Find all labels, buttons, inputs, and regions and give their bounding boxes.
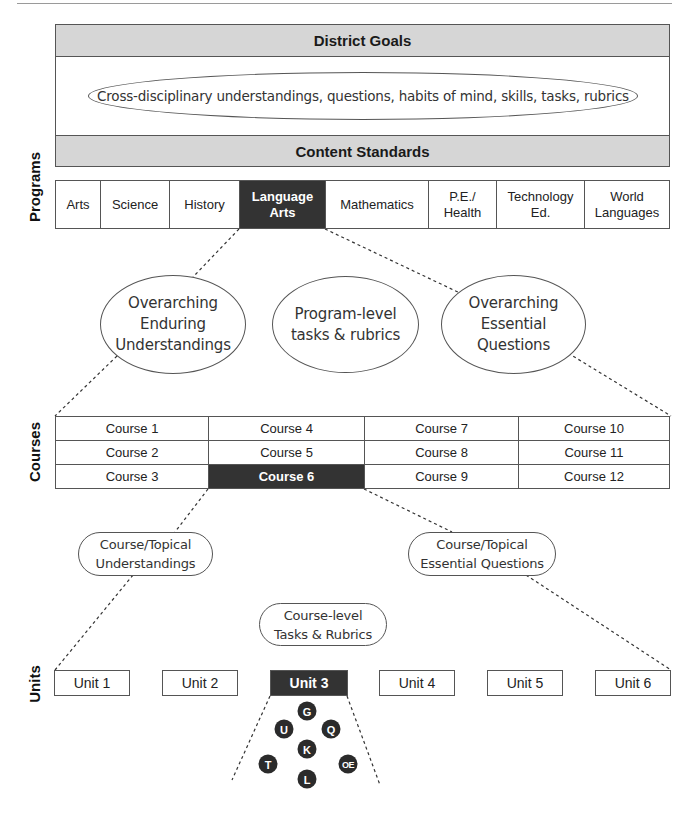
course-11[interactable]: Course 11 — [519, 441, 669, 465]
unit-3[interactable]: Unit 3 — [270, 670, 348, 696]
course-4[interactable]: Course 4 — [209, 417, 365, 441]
overarching-enduring-understandings-oval: Overarching Enduring Understandings — [100, 275, 246, 374]
unit-element-q: Q — [322, 720, 341, 739]
course-1[interactable]: Course 1 — [56, 417, 209, 441]
unit-element-l: L — [298, 770, 317, 789]
course-6[interactable]: Course 6 — [209, 465, 365, 488]
course-level-tasks-text: Course-level Tasks & Rubrics — [274, 606, 372, 644]
program-arts[interactable]: Arts — [56, 181, 101, 228]
course-level-tasks-pill: Course-level Tasks & Rubrics — [259, 603, 387, 646]
course-topical-essential-questions-text: Course/Topical Essential Questions — [420, 535, 544, 573]
overarching-enduring-understandings-text: Overarching Enduring Understandings — [115, 293, 231, 356]
course-3[interactable]: Course 3 — [56, 465, 209, 488]
program-technology-ed[interactable]: Technology Ed. — [497, 181, 585, 228]
courses-table: Course 1 Course 4 Course 7 Course 10 Cou… — [55, 416, 670, 489]
course-12[interactable]: Course 12 — [519, 465, 669, 488]
programs-row: Arts Science History Language Arts Mathe… — [55, 180, 670, 229]
unit-1[interactable]: Unit 1 — [54, 670, 130, 696]
unit-element-t: T — [259, 755, 278, 774]
unit-element-oe: OE — [339, 755, 358, 774]
course-8[interactable]: Course 8 — [365, 441, 519, 465]
course-5[interactable]: Course 5 — [209, 441, 365, 465]
program-level-tasks-text: Program-level tasks & rubrics — [291, 304, 400, 346]
unit-element-g: G — [298, 702, 317, 721]
program-world-languages[interactable]: World Languages — [585, 181, 669, 228]
course-9[interactable]: Course 9 — [365, 465, 519, 488]
overarching-essential-questions-oval: Overarching Essential Questions — [441, 275, 586, 374]
course-topical-understandings-text: Course/Topical Understandings — [96, 535, 196, 573]
unit-6[interactable]: Unit 6 — [595, 670, 671, 696]
program-language-arts[interactable]: Language Arts — [240, 181, 326, 228]
program-history[interactable]: History — [170, 181, 240, 228]
course-10[interactable]: Course 10 — [519, 417, 669, 441]
unit-element-u: U — [275, 720, 294, 739]
unit-element-k: K — [298, 740, 317, 759]
course-topical-understandings-pill: Course/Topical Understandings — [78, 532, 213, 576]
program-mathematics[interactable]: Mathematics — [326, 181, 429, 228]
unit-4[interactable]: Unit 4 — [379, 670, 455, 696]
course-7[interactable]: Course 7 — [365, 417, 519, 441]
program-science[interactable]: Science — [101, 181, 170, 228]
course-topical-essential-questions-pill: Course/Topical Essential Questions — [408, 532, 556, 576]
unit-2[interactable]: Unit 2 — [162, 670, 238, 696]
unit-5[interactable]: Unit 5 — [487, 670, 563, 696]
program-pe-health[interactable]: P.E./ Health — [429, 181, 497, 228]
course-2[interactable]: Course 2 — [56, 441, 209, 465]
program-level-tasks-oval: Program-level tasks & rubrics — [272, 276, 419, 373]
overarching-essential-questions-text: Overarching Essential Questions — [469, 293, 559, 356]
